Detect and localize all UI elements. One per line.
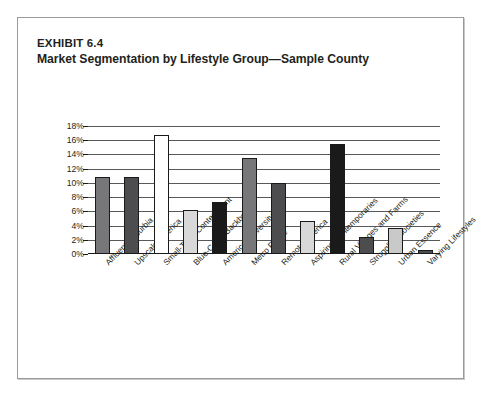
bar-slot [88,126,117,254]
bar-affluent-suburbia [95,177,110,254]
bar-slot [235,126,264,254]
exhibit-title-block: EXHIBIT 6.4 Market Segmentation by Lifes… [37,36,447,67]
x-axis-label: Struggling Societies [367,260,374,267]
y-axis-tick-label: 12% [44,164,84,174]
y-axis-tick-mark [83,240,88,241]
y-axis-tick-mark [83,140,88,141]
y-axis-tick-label: 6% [44,206,84,216]
bar-small-town-contentment [154,135,169,254]
y-axis-tick-label: 8% [44,192,84,202]
y-axis-tick-label: 18% [44,121,84,131]
x-axis-label: Blue-Collar Backbone [191,260,198,267]
bar-slot [323,126,352,254]
bar-upscale-america [124,177,139,254]
x-axis-label: Affluent Suburbia [103,260,110,267]
bar-struggling-societies [359,237,374,254]
x-axis-label: Remote America [279,260,286,267]
y-axis-tick-label: 4% [44,221,84,231]
y-axis-tick-label: 14% [44,149,84,159]
x-axis-label: Small-Town Contentment [161,260,168,267]
y-axis-tick-mark [83,126,88,127]
y-axis-tick-label: 10% [44,178,84,188]
bar-urban-essence [388,228,403,254]
y-axis-tick-label: 0% [44,249,84,259]
y-axis-tick-mark [83,226,88,227]
bar-american-diversity [212,202,227,254]
bar-varying-lifestyles [418,250,433,254]
bar-slot [147,126,176,254]
x-axis-label: Metro Fringe [249,260,256,267]
bar-chart: 0%2%4%6%8%10%12%14%16%18% Affluent Subur… [18,100,463,378]
y-axis-tick-mark [83,197,88,198]
bar-rural-villages-and-farms [330,144,345,254]
y-axis-tick-mark [83,183,88,184]
exhibit-number: EXHIBIT 6.4 [37,36,447,51]
y-axis-tick-mark [83,169,88,170]
y-axis-tick-mark [83,211,88,212]
exhibit-title: Market Segmentation by Lifestyle Group—S… [37,51,447,67]
y-axis-tick-label: 16% [44,135,84,145]
x-axis-label: Urban Essence [396,260,403,267]
bar-remote-america [271,183,286,254]
x-axis-label: Upscale America [132,260,139,267]
bar-slot [264,126,293,254]
x-axis-label: Varying Lifestyles [425,260,432,267]
x-axis-label: Rural Villages and Farms [337,260,344,267]
x-axis-labels: Affluent SuburbiaUpscale AmericaSmall-To… [88,258,440,376]
bar-metro-fringe [242,158,257,254]
bar-slot [176,126,205,254]
x-axis-label: Aspiring Contemporaries [308,260,315,267]
y-axis-tick-mark [83,154,88,155]
exhibit-figure-frame: EXHIBIT 6.4 Market Segmentation by Lifes… [17,17,464,379]
bar-blue-collar-backbone [183,210,198,254]
x-axis-label: American Diversity [220,260,227,267]
y-axis-tick-mark [83,254,88,255]
bar-aspiring-contemporaries [300,221,315,254]
y-axis-tick-label: 2% [44,235,84,245]
